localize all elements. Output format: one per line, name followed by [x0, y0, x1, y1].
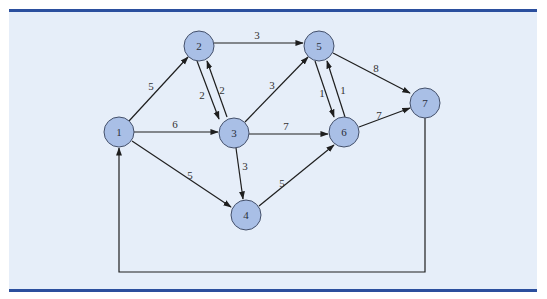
- edge-3-5: [245, 57, 308, 122]
- weight-3-2: 2: [219, 84, 225, 96]
- node-5: 5: [304, 31, 334, 61]
- weight-4-6: 5: [279, 177, 285, 189]
- weight-6-7: 7: [376, 109, 382, 121]
- edge-3-4: [236, 148, 243, 199]
- node-5-label: 5: [316, 40, 322, 52]
- node-7-label: 7: [422, 97, 428, 109]
- node-2-label: 2: [196, 40, 202, 52]
- weight-3-4: 3: [242, 160, 248, 172]
- edge-1-2: [129, 57, 188, 121]
- weight-6-5: 1: [340, 84, 346, 96]
- node-2: 2: [184, 31, 214, 61]
- node-6-label: 6: [341, 126, 347, 138]
- node-4: 4: [231, 200, 261, 230]
- node-6: 6: [329, 117, 359, 147]
- weight-3-5: 3: [269, 79, 275, 91]
- weight-5-7: 8: [373, 62, 379, 74]
- node-3-label: 3: [231, 127, 237, 139]
- node-3: 3: [219, 118, 249, 148]
- weight-1-4: 5: [187, 169, 193, 181]
- network-graph: 5 6 5 3 2 2 3 7 3 5 8 1 1 7 1 2 3 4 5 6 …: [0, 0, 547, 299]
- weight-5-6: 1: [319, 87, 325, 99]
- node-1-label: 1: [116, 126, 122, 138]
- weight-2-5: 3: [254, 29, 260, 41]
- node-4-label: 4: [243, 209, 249, 221]
- weight-1-2: 5: [148, 80, 154, 92]
- node-1: 1: [104, 117, 134, 147]
- edge-4-6: [259, 145, 334, 206]
- weight-1-3: 6: [172, 118, 178, 130]
- edge-6-7: [359, 108, 410, 127]
- weight-3-6: 7: [283, 120, 289, 132]
- edge-1-4: [132, 141, 231, 207]
- node-7: 7: [410, 88, 440, 118]
- weight-2-3: 2: [199, 89, 205, 101]
